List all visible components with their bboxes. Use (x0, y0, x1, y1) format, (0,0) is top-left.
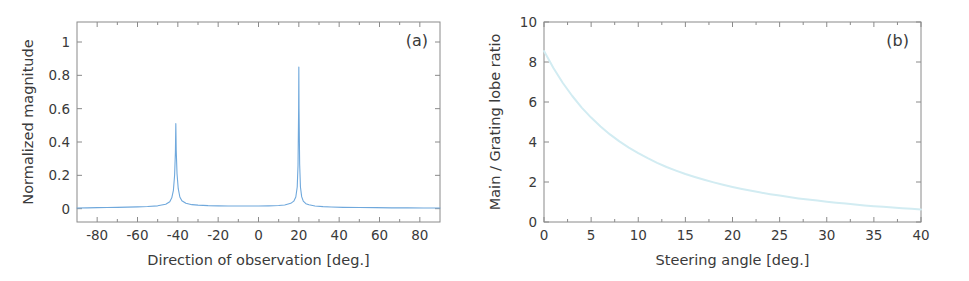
x-tick-label: 25 (771, 227, 788, 243)
y-tick-label: 0 (61, 201, 70, 217)
x-tick-label: 15 (677, 227, 694, 243)
x-tick-label: 35 (865, 227, 882, 243)
x-axis-label: Direction of observation [deg.] (147, 252, 369, 268)
y-tick-label: 4 (528, 134, 537, 150)
data-series-line (544, 51, 921, 209)
y-axis-label: Main / Grating lobe ratio (487, 34, 503, 211)
x-tick-label: 30 (818, 227, 835, 243)
x-tick-label: 20 (290, 227, 307, 243)
y-tick-label: 0.2 (49, 167, 70, 183)
y-tick-label: 2 (528, 174, 537, 190)
plot-frame (544, 22, 921, 222)
y-tick-label: 0 (528, 214, 537, 230)
panel-a-beam-pattern: -80-60-40-2002040608000.20.40.60.81Direc… (0, 0, 485, 281)
panel-b-plot: 05101520253035400246810Steering angle [d… (485, 0, 969, 281)
x-tick-label: 5 (587, 227, 596, 243)
x-tick-label: 0 (540, 227, 549, 243)
y-tick-label: 6 (528, 94, 537, 110)
x-tick-label: -20 (207, 227, 229, 243)
y-tick-label: 0.6 (49, 101, 70, 117)
plot-frame (77, 22, 440, 222)
y-tick-label: 1 (61, 34, 70, 50)
panel-a-plot: -80-60-40-2002040608000.20.40.60.81Direc… (0, 0, 485, 281)
x-tick-label: 80 (411, 227, 428, 243)
y-tick-label: 8 (528, 54, 537, 70)
x-tick-label: 40 (331, 227, 348, 243)
x-tick-label: 40 (912, 227, 929, 243)
y-tick-label: 10 (520, 14, 537, 30)
y-tick-label: 0.8 (49, 67, 70, 83)
x-tick-label: 10 (630, 227, 647, 243)
x-tick-label: -40 (167, 227, 189, 243)
panel-label: (b) (886, 31, 909, 50)
panel-label: (a) (406, 31, 428, 50)
x-axis-label: Steering angle [deg.] (656, 252, 810, 268)
figure-container: -80-60-40-2002040608000.20.40.60.81Direc… (0, 0, 969, 281)
y-axis-label: Normalized magnitude (20, 39, 36, 204)
x-tick-label: -60 (126, 227, 148, 243)
data-series-line (77, 67, 440, 208)
x-tick-label: 60 (371, 227, 388, 243)
panel-b-lobe-ratio: 05101520253035400246810Steering angle [d… (485, 0, 969, 281)
x-tick-label: -80 (86, 227, 108, 243)
y-tick-label: 0.4 (49, 134, 70, 150)
x-tick-label: 0 (254, 227, 263, 243)
x-tick-label: 20 (724, 227, 741, 243)
